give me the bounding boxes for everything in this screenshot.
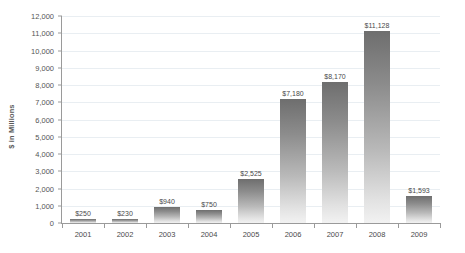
bar-value-label: $2,525: [240, 170, 261, 177]
bar-slot: $2,525: [230, 16, 272, 223]
y-axis-tick-label: 8,000: [35, 81, 54, 90]
y-axis-tick-label: 6,000: [35, 115, 54, 124]
bar[interactable]: [406, 196, 432, 223]
x-axis-tick-label: 2005: [243, 230, 260, 239]
bar-value-label: $250: [75, 210, 91, 217]
bar-value-label: $1,593: [408, 187, 429, 194]
bar-slot: $940: [146, 16, 188, 223]
x-axis-tick-mark: [104, 224, 105, 228]
y-axis-tick-label: 0: [50, 219, 54, 228]
x-axis-tick-mark: [314, 224, 315, 228]
y-axis-tick-label: 1,000: [35, 201, 54, 210]
y-axis-tick-labels: 12,00011,00010,0009,0008,0007,0006,0005,…: [0, 16, 62, 223]
bar-slot: $8,170: [314, 16, 356, 223]
y-axis-tick-label: 3,000: [35, 167, 54, 176]
bar-slot: $750: [188, 16, 230, 223]
bar-slot: $11,128: [356, 16, 398, 223]
bar[interactable]: [238, 179, 264, 223]
bar-value-label: $11,128: [365, 22, 390, 29]
x-axis-tick-mark: [272, 224, 273, 228]
x-axis-tick-mark: [146, 224, 147, 228]
y-axis-tick-label: 7,000: [35, 98, 54, 107]
x-axis-tick-label: 2008: [369, 230, 386, 239]
y-axis-tick-label: 5,000: [35, 132, 54, 141]
x-axis-tick-mark: [440, 224, 441, 228]
y-axis-tick-label: 2,000: [35, 184, 54, 193]
x-axis-tick-label: 2002: [117, 230, 134, 239]
bar[interactable]: [154, 207, 180, 223]
plot-area: $250$230$940$750$2,525$7,180$8,170$11,12…: [62, 16, 440, 223]
x-axis-tick-label: 2009: [411, 230, 428, 239]
bar-series: $250$230$940$750$2,525$7,180$8,170$11,12…: [62, 16, 440, 223]
x-axis-tick-labels: 200120022003200420052006200720082009: [62, 224, 440, 246]
bar-value-label: $8,170: [324, 73, 345, 80]
y-axis-tick-label: 9,000: [35, 63, 54, 72]
x-axis-tick-mark: [188, 224, 189, 228]
y-axis-tick-label: 11,000: [32, 29, 54, 38]
x-axis-tick-label: 2006: [285, 230, 302, 239]
x-axis-tick-label: 2007: [327, 230, 344, 239]
bar-value-label: $7,180: [282, 90, 303, 97]
y-axis-tick-label: 12,000: [31, 12, 54, 21]
y-axis-tick-label: 4,000: [35, 150, 54, 159]
x-axis-tick-label: 2001: [75, 230, 92, 239]
bar[interactable]: [196, 210, 222, 223]
bar-slot: $230: [104, 16, 146, 223]
bar[interactable]: [322, 82, 348, 223]
x-axis-tick-mark: [398, 224, 399, 228]
x-axis-tick-label: 2003: [159, 230, 176, 239]
x-axis-tick-mark: [230, 224, 231, 228]
y-axis-tick-label: 10,000: [31, 46, 54, 55]
bar-value-label: $230: [117, 210, 133, 217]
bar-value-label: $750: [201, 201, 217, 208]
bar[interactable]: [280, 99, 306, 223]
x-axis-tick-label: 2004: [201, 230, 218, 239]
bar[interactable]: [364, 31, 390, 223]
bar-chart: $ in Millions 12,00011,00010,0009,0008,0…: [0, 0, 465, 253]
bar-slot: $7,180: [272, 16, 314, 223]
x-axis-tick-mark: [356, 224, 357, 228]
bar-slot: $1,593: [398, 16, 440, 223]
bar-slot: $250: [62, 16, 104, 223]
bar-value-label: $940: [159, 198, 175, 205]
x-axis-tick-mark: [62, 224, 63, 228]
